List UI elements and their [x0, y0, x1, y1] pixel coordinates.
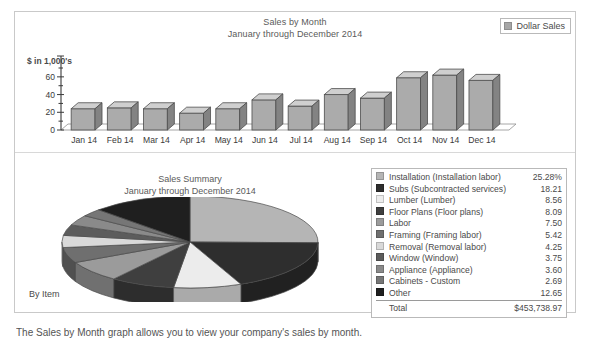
breakdown-label: Appliance (Appliance): [389, 265, 512, 277]
breakdown-table: Installation (Installation labor)25.28%S…: [376, 172, 562, 314]
bar-category-label: Nov 14: [432, 135, 459, 145]
breakdown-swatch-icon: [376, 184, 384, 192]
bar-category-label: Dec 14: [468, 135, 495, 145]
breakdown-swatch-cell: [376, 265, 389, 277]
breakdown-swatch-icon: [376, 207, 384, 215]
pie-chart-title-line1: Sales Summary: [158, 174, 222, 184]
footer-cut-text: The Sales by Month graph allows you to v…: [16, 326, 436, 339]
breakdown-swatch-icon: [376, 276, 384, 284]
breakdown-label: Floor Plans (Floor plans): [389, 207, 512, 219]
pie-slice: [190, 197, 318, 243]
breakdown-row[interactable]: Cabinets - Custom2.69: [376, 276, 562, 288]
breakdown-total-row: Total$453,738.97: [376, 300, 562, 314]
pie-chart-title-line2: January through December 2014: [124, 186, 256, 196]
svg-text:0: 0: [50, 125, 55, 135]
breakdown-label: Removal (Removal labor): [389, 242, 512, 254]
breakdown-label: Labor: [389, 218, 512, 230]
breakdown-legend-table[interactable]: Installation (Installation labor)25.28%S…: [371, 168, 567, 318]
breakdown-swatch-icon: [376, 265, 384, 273]
bar-category-label: Sep 14: [360, 135, 387, 145]
breakdown-row[interactable]: Other12.65: [376, 288, 562, 300]
breakdown-swatch-icon: [376, 172, 384, 180]
breakdown-row[interactable]: Removal (Removal labor)4.25: [376, 242, 562, 254]
breakdown-value: 25.28%: [512, 172, 562, 184]
breakdown-total-value: $453,738.97: [512, 300, 562, 314]
breakdown-row[interactable]: Installation (Installation labor)25.28%: [376, 172, 562, 184]
breakdown-label: Other: [389, 288, 512, 300]
breakdown-label: Installation (Installation labor): [389, 172, 512, 184]
bar-category-label: Mar 14: [143, 135, 170, 145]
breakdown-value: 3.75: [512, 253, 562, 265]
breakdown-label: Subs (Subcontracted services): [389, 184, 512, 196]
breakdown-row[interactable]: Lumber (Lumber)8.56: [376, 195, 562, 207]
breakdown-value: 18.21: [512, 184, 562, 196]
breakdown-value: 7.50: [512, 218, 562, 230]
breakdown-row[interactable]: Window (Window)3.75: [376, 253, 562, 265]
breakdown-row[interactable]: Subs (Subcontracted services)18.21: [376, 184, 562, 196]
breakdown-swatch-icon: [376, 288, 384, 296]
breakdown-swatch-cell: [376, 207, 389, 219]
breakdown-swatch-icon: [376, 195, 384, 203]
svg-text:40: 40: [46, 90, 56, 100]
breakdown-swatch-icon: [376, 253, 384, 261]
breakdown-label: Window (Window): [389, 253, 512, 265]
breakdown-swatch-icon: [376, 242, 384, 250]
breakdown-value: 5.42: [512, 230, 562, 242]
bar-category-label: Feb 14: [107, 135, 134, 145]
breakdown-value: 12.65: [512, 288, 562, 300]
breakdown-swatch-cell: [376, 253, 389, 265]
by-item-label: By Item: [29, 289, 60, 299]
breakdown-table-body: Installation (Installation labor)25.28%S…: [376, 172, 562, 314]
bar-category-label: May 14: [215, 135, 243, 145]
bar-category-label: Apr 14: [180, 135, 206, 145]
breakdown-value: 8.56: [512, 195, 562, 207]
breakdown-swatch-cell: [376, 195, 389, 207]
bar-category-label: Jul 14: [290, 135, 313, 145]
bar-category-label: Aug 14: [324, 135, 351, 145]
breakdown-value: 2.69: [512, 276, 562, 288]
bar-category-label: Jun 14: [252, 135, 278, 145]
bar-category-label: Oct 14: [397, 135, 423, 145]
svg-text:60: 60: [46, 72, 56, 82]
breakdown-value: 8.09: [512, 207, 562, 219]
breakdown-label: Cabinets - Custom: [389, 276, 512, 288]
breakdown-swatch-cell: [376, 172, 389, 184]
sales-by-month-chart-panel: Sales by Month January through December …: [15, 12, 575, 153]
breakdown-total-label: Total: [389, 300, 512, 314]
breakdown-swatch-cell: [376, 276, 389, 288]
breakdown-total-spacer: [376, 300, 389, 314]
breakdown-swatch-icon: [376, 218, 384, 226]
breakdown-row[interactable]: Labor7.50: [376, 218, 562, 230]
breakdown-value: 4.25: [512, 242, 562, 254]
breakdown-label: Framing (Framing labor): [389, 230, 512, 242]
breakdown-swatch-cell: [376, 184, 389, 196]
breakdown-swatch-cell: [376, 230, 389, 242]
breakdown-swatch-cell: [376, 288, 389, 300]
breakdown-row[interactable]: Appliance (Appliance)3.60: [376, 265, 562, 277]
pie-chart-svg: [25, 197, 355, 302]
svg-text:20: 20: [46, 107, 56, 117]
breakdown-swatch-cell: [376, 218, 389, 230]
bar-category-label: Jan 14: [71, 135, 97, 145]
sales-summary-panel: Sales Summary January through December 2…: [15, 153, 575, 313]
pie-chart-title: Sales Summary January through December 2…: [25, 173, 355, 197]
breakdown-swatch-icon: [376, 230, 384, 238]
breakdown-swatch-cell: [376, 242, 389, 254]
bar-chart-svg: 0204060Jan 14Feb 14Mar 14Apr 14May 14Jun…: [15, 12, 575, 153]
report-screenshot: Sales by Month January through December …: [0, 0, 590, 339]
report-frame: Sales by Month January through December …: [14, 11, 576, 313]
breakdown-value: 3.60: [512, 265, 562, 277]
breakdown-label: Lumber (Lumber): [389, 195, 512, 207]
breakdown-row[interactable]: Framing (Framing labor)5.42: [376, 230, 562, 242]
breakdown-row[interactable]: Floor Plans (Floor plans)8.09: [376, 207, 562, 219]
